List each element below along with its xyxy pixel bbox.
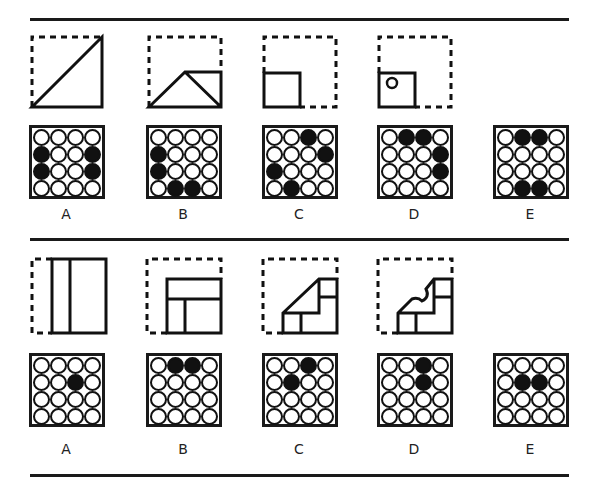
empty-dot bbox=[497, 129, 514, 146]
empty-dot bbox=[201, 163, 218, 180]
empty-dot bbox=[50, 180, 67, 197]
empty-dot bbox=[33, 180, 50, 197]
filled-dot bbox=[531, 180, 548, 197]
puzzle1-figure-4 bbox=[375, 33, 457, 113]
empty-dot bbox=[398, 374, 415, 391]
empty-dot bbox=[184, 163, 201, 180]
puzzle1-option-label: B bbox=[146, 206, 220, 222]
empty-dot bbox=[300, 163, 317, 180]
filled-dot bbox=[84, 146, 101, 163]
empty-dot bbox=[33, 374, 50, 391]
empty-dot bbox=[84, 129, 101, 146]
empty-dot bbox=[398, 146, 415, 163]
empty-dot bbox=[398, 391, 415, 408]
empty-dot bbox=[84, 180, 101, 197]
puzzle2-option-label: D bbox=[377, 441, 451, 457]
empty-dot bbox=[84, 374, 101, 391]
empty-dot bbox=[531, 357, 548, 374]
empty-dot bbox=[548, 146, 565, 163]
empty-dot bbox=[381, 374, 398, 391]
empty-dot bbox=[150, 391, 167, 408]
empty-dot bbox=[531, 408, 548, 425]
puzzle1-option-d-grid bbox=[377, 125, 453, 199]
puzzle2-option-e-grid bbox=[493, 353, 569, 427]
empty-dot bbox=[283, 129, 300, 146]
empty-dot bbox=[150, 408, 167, 425]
filled-dot bbox=[84, 163, 101, 180]
filled-dot bbox=[514, 129, 531, 146]
empty-dot bbox=[67, 391, 84, 408]
empty-dot bbox=[167, 146, 184, 163]
empty-dot bbox=[84, 391, 101, 408]
empty-dot bbox=[150, 129, 167, 146]
filled-dot bbox=[531, 129, 548, 146]
empty-dot bbox=[317, 163, 334, 180]
empty-dot bbox=[67, 146, 84, 163]
filled-dot bbox=[531, 374, 548, 391]
puzzle1-option-label: A bbox=[29, 206, 103, 222]
puzzle1-figure-2 bbox=[145, 33, 227, 113]
empty-dot bbox=[432, 357, 449, 374]
empty-dot bbox=[531, 146, 548, 163]
empty-dot bbox=[514, 391, 531, 408]
empty-dot bbox=[432, 180, 449, 197]
filled-dot bbox=[283, 374, 300, 391]
empty-dot bbox=[201, 180, 218, 197]
empty-dot bbox=[167, 163, 184, 180]
empty-dot bbox=[67, 129, 84, 146]
empty-dot bbox=[33, 391, 50, 408]
puzzle2-option-label: E bbox=[493, 441, 567, 457]
empty-dot bbox=[548, 129, 565, 146]
filled-dot bbox=[415, 357, 432, 374]
empty-dot bbox=[283, 146, 300, 163]
empty-dot bbox=[514, 163, 531, 180]
empty-dot bbox=[150, 357, 167, 374]
empty-dot bbox=[266, 391, 283, 408]
empty-dot bbox=[497, 357, 514, 374]
empty-dot bbox=[531, 391, 548, 408]
puzzle2-figure-2 bbox=[143, 255, 225, 339]
filled-dot bbox=[283, 180, 300, 197]
empty-dot bbox=[415, 180, 432, 197]
empty-dot bbox=[381, 163, 398, 180]
empty-dot bbox=[497, 391, 514, 408]
empty-dot bbox=[317, 129, 334, 146]
puzzle1-option-label: E bbox=[493, 206, 567, 222]
empty-dot bbox=[381, 357, 398, 374]
empty-dot bbox=[497, 146, 514, 163]
puzzle2-option-a-grid bbox=[29, 353, 105, 427]
empty-dot bbox=[300, 408, 317, 425]
filled-dot bbox=[33, 163, 50, 180]
filled-dot bbox=[67, 374, 84, 391]
empty-dot bbox=[317, 374, 334, 391]
empty-dot bbox=[184, 146, 201, 163]
filled-dot bbox=[167, 180, 184, 197]
puzzle1-option-b-grid bbox=[146, 125, 222, 199]
empty-dot bbox=[514, 146, 531, 163]
empty-dot bbox=[266, 146, 283, 163]
filled-dot bbox=[415, 129, 432, 146]
puzzle2-option-label: B bbox=[146, 441, 220, 457]
empty-dot bbox=[67, 180, 84, 197]
empty-dot bbox=[33, 129, 50, 146]
empty-dot bbox=[398, 357, 415, 374]
empty-dot bbox=[300, 180, 317, 197]
empty-dot bbox=[266, 357, 283, 374]
empty-dot bbox=[300, 374, 317, 391]
empty-dot bbox=[497, 163, 514, 180]
empty-dot bbox=[415, 146, 432, 163]
empty-dot bbox=[201, 146, 218, 163]
empty-dot bbox=[283, 357, 300, 374]
puzzle2-figure-1 bbox=[28, 255, 110, 339]
puzzle1-option-c-grid bbox=[262, 125, 338, 199]
filled-dot bbox=[317, 146, 334, 163]
empty-dot bbox=[167, 129, 184, 146]
puzzle1-figure-1 bbox=[28, 33, 110, 113]
puzzle2-option-b-grid bbox=[146, 353, 222, 427]
empty-dot bbox=[497, 408, 514, 425]
empty-dot bbox=[266, 374, 283, 391]
empty-dot bbox=[300, 391, 317, 408]
filled-dot bbox=[514, 374, 531, 391]
empty-dot bbox=[201, 129, 218, 146]
empty-dot bbox=[33, 357, 50, 374]
